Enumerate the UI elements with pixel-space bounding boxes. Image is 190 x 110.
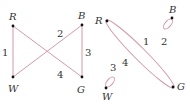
edge-label-1: 1 (2, 47, 8, 58)
vertex-label-w: W (8, 83, 19, 94)
edge-label-3: 3 (110, 62, 116, 73)
vertex-r (106, 20, 109, 23)
vertex-g (172, 86, 175, 89)
edge-label-4: 4 (57, 69, 63, 80)
right-graph: R B W G 1 2 3 4 (94, 4, 185, 102)
vertex-w (12, 76, 15, 79)
loop-w (104, 75, 116, 88)
vertex-r (12, 25, 15, 28)
edge-label-1: 1 (143, 36, 149, 47)
vertex-label-g: G (177, 81, 185, 92)
edge-label-4: 4 (122, 57, 128, 68)
vertex-label-r: R (94, 15, 103, 26)
vertex-b (81, 24, 84, 27)
vertex-label-w: W (102, 91, 113, 102)
vertex-label-r: R (8, 11, 17, 22)
edge-label-2: 2 (161, 36, 167, 47)
vertex-w (105, 87, 108, 90)
loop-b (162, 17, 174, 30)
vertex-label-g: G (77, 84, 85, 95)
vertex-g (81, 76, 84, 79)
vertex-label-b: B (168, 4, 176, 15)
edge-label-2: 2 (57, 28, 63, 39)
vertex-b (171, 17, 174, 20)
vertex-label-b: B (77, 10, 85, 21)
edge-r-g-double (102, 16, 178, 92)
graph-diagram: R B W G 1 2 3 4 R B W G 1 2 3 4 (0, 0, 190, 110)
left-graph: R B W G 1 2 3 4 (2, 10, 91, 95)
edge-label-3: 3 (85, 47, 91, 58)
